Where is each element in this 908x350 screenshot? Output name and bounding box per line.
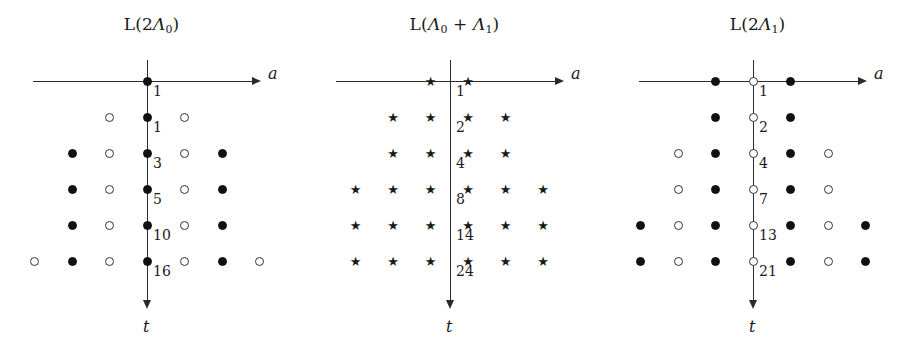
multiplicity-label: 5 bbox=[153, 191, 162, 207]
weight-filled-marker bbox=[218, 185, 227, 194]
axis-label-t: t bbox=[446, 317, 452, 336]
multiplicity-label: 21 bbox=[759, 263, 777, 279]
weight-open-marker bbox=[180, 113, 189, 122]
weight-filled-marker bbox=[711, 149, 720, 158]
panel-title: L(2Λ1) bbox=[606, 14, 908, 36]
weight-open-marker bbox=[749, 221, 758, 230]
weight-filled-marker bbox=[711, 221, 720, 230]
axis-label-t: t bbox=[143, 317, 149, 336]
multiplicity-label: 1 bbox=[456, 83, 465, 99]
weight-open-marker bbox=[674, 149, 683, 158]
multiplicity-label: 3 bbox=[153, 155, 162, 171]
weight-filled-marker bbox=[636, 257, 645, 266]
multiplicity-label: 1 bbox=[153, 119, 162, 135]
multiplicity-label: 1 bbox=[759, 83, 768, 99]
weight-filled-marker bbox=[711, 185, 720, 194]
weight-filled-marker bbox=[143, 221, 152, 230]
weight-star-marker: ★ bbox=[387, 255, 399, 268]
weight-star-marker: ★ bbox=[425, 147, 437, 160]
weight-open-marker bbox=[749, 185, 758, 194]
multiplicity-label: 2 bbox=[456, 119, 465, 135]
panel-lambda0-plus-lambda1: L(Λ0 + Λ1)at★★1★★★★2★★★★4★★★★★★8★★★★★★14… bbox=[303, 0, 606, 350]
weight-filled-marker bbox=[786, 113, 795, 122]
weight-filled-marker bbox=[68, 221, 77, 230]
multiplicity-label: 10 bbox=[153, 227, 171, 243]
axis-label-a: a bbox=[571, 64, 581, 83]
panel-title: L(2Λ0) bbox=[0, 14, 303, 36]
multiplicity-label: 4 bbox=[456, 155, 465, 171]
weight-star-marker: ★ bbox=[425, 255, 437, 268]
weight-open-marker bbox=[30, 257, 39, 266]
multiplicity-label: 7 bbox=[759, 191, 768, 207]
weight-open-marker bbox=[105, 257, 114, 266]
weight-filled-marker bbox=[786, 257, 795, 266]
horizontal-axis bbox=[336, 81, 555, 82]
multiplicity-label: 14 bbox=[456, 227, 474, 243]
weight-star-marker: ★ bbox=[425, 183, 437, 196]
multiplicity-label: 13 bbox=[759, 227, 777, 243]
weight-open-marker bbox=[749, 149, 758, 158]
weight-star-marker: ★ bbox=[500, 111, 512, 124]
weight-filled-marker bbox=[68, 149, 77, 158]
weight-star-marker: ★ bbox=[350, 219, 362, 232]
weight-filled-marker bbox=[711, 257, 720, 266]
weight-open-marker bbox=[824, 221, 833, 230]
panel-2lambda1: L(2Λ1)at12471321 bbox=[606, 0, 908, 350]
weight-open-marker bbox=[674, 221, 683, 230]
multiplicity-label: 24 bbox=[456, 263, 474, 279]
multiplicity-label: 8 bbox=[456, 191, 465, 207]
horizontal-axis-arrow-icon bbox=[555, 77, 564, 85]
weight-star-marker: ★ bbox=[425, 75, 437, 88]
axis-label-a: a bbox=[874, 64, 884, 83]
vertical-axis bbox=[450, 60, 451, 300]
weight-open-marker bbox=[824, 149, 833, 158]
weight-star-marker: ★ bbox=[425, 219, 437, 232]
vertical-axis-arrow-icon bbox=[749, 300, 757, 309]
weight-filled-marker bbox=[711, 77, 720, 86]
weight-star-marker: ★ bbox=[425, 111, 437, 124]
axis-label-t: t bbox=[749, 317, 755, 336]
weight-star-marker: ★ bbox=[537, 255, 549, 268]
root-figure: L(2Λ0)at11351016L(Λ0 + Λ1)at★★1★★★★2★★★★… bbox=[0, 0, 908, 350]
multiplicity-label: 2 bbox=[759, 119, 768, 135]
weight-open-marker bbox=[824, 185, 833, 194]
weight-star-marker: ★ bbox=[387, 219, 399, 232]
weight-open-marker bbox=[674, 257, 683, 266]
weight-filled-marker bbox=[786, 221, 795, 230]
horizontal-axis-arrow-icon bbox=[252, 77, 261, 85]
weight-open-marker bbox=[105, 185, 114, 194]
weight-filled-marker bbox=[861, 257, 870, 266]
weight-star-marker: ★ bbox=[350, 255, 362, 268]
weight-star-marker: ★ bbox=[387, 147, 399, 160]
panel-title: L(Λ0 + Λ1) bbox=[303, 14, 606, 36]
weight-open-marker bbox=[255, 257, 264, 266]
weight-open-marker bbox=[180, 257, 189, 266]
weight-star-marker: ★ bbox=[387, 183, 399, 196]
weight-filled-marker bbox=[786, 77, 795, 86]
weight-open-marker bbox=[105, 113, 114, 122]
weight-filled-marker bbox=[218, 221, 227, 230]
weight-star-marker: ★ bbox=[537, 183, 549, 196]
weight-filled-marker bbox=[143, 113, 152, 122]
weight-open-marker bbox=[105, 221, 114, 230]
weight-filled-marker bbox=[786, 149, 795, 158]
weight-filled-marker bbox=[143, 257, 152, 266]
weight-filled-marker bbox=[143, 185, 152, 194]
weight-filled-marker bbox=[68, 257, 77, 266]
weight-star-marker: ★ bbox=[350, 183, 362, 196]
weight-open-marker bbox=[749, 77, 758, 86]
weight-star-marker: ★ bbox=[500, 147, 512, 160]
multiplicity-label: 1 bbox=[153, 83, 162, 99]
weight-open-marker bbox=[105, 149, 114, 158]
weight-filled-marker bbox=[636, 221, 645, 230]
weight-filled-marker bbox=[143, 149, 152, 158]
weight-filled-marker bbox=[861, 221, 870, 230]
weight-open-marker bbox=[749, 113, 758, 122]
weight-star-marker: ★ bbox=[500, 255, 512, 268]
weight-star-marker: ★ bbox=[500, 219, 512, 232]
weight-open-marker bbox=[749, 257, 758, 266]
weight-filled-marker bbox=[143, 77, 152, 86]
weight-filled-marker bbox=[68, 185, 77, 194]
weight-star-marker: ★ bbox=[500, 183, 512, 196]
weight-open-marker bbox=[180, 149, 189, 158]
